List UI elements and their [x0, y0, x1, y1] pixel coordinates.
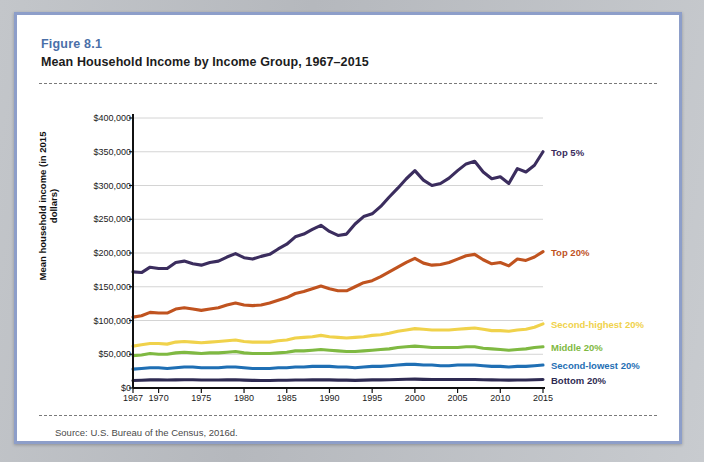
- y-tick-label: $300,000: [65, 181, 131, 191]
- y-tick-label: $250,000: [65, 214, 131, 224]
- divider-bottom: [39, 415, 657, 416]
- x-tick-label: 2010: [490, 393, 510, 403]
- series-label: Second-lowest 20%: [551, 360, 640, 371]
- y-tick-label: $150,000: [65, 282, 131, 292]
- chart-area: Mean household income (in 2015 dollars) …: [17, 83, 679, 415]
- figure-inner: Figure 8.1 Mean Household Income by Inco…: [17, 15, 679, 441]
- x-tick-label: 1975: [191, 393, 211, 403]
- y-axis-label: Mean household income (in 2015 dollars): [37, 121, 59, 291]
- figure-source: Source: U.S. Bureau of the Census, 2016d…: [55, 427, 238, 438]
- x-tick-label: 1980: [234, 393, 254, 403]
- series-label: Top 20%: [551, 246, 589, 257]
- y-tick-label: $50,000: [65, 349, 131, 359]
- series-label: Middle 20%: [551, 341, 603, 352]
- series-label: Top 5%: [551, 146, 584, 157]
- y-tick-label: $350,000: [65, 147, 131, 157]
- figure-number: Figure 8.1: [41, 37, 102, 51]
- x-tick-label: 2000: [405, 393, 425, 403]
- figure-card: Figure 8.1 Mean Household Income by Inco…: [14, 12, 682, 444]
- x-tick-label: 2015: [533, 393, 553, 403]
- screenshot-root: Figure 8.1 Mean Household Income by Inco…: [0, 0, 704, 462]
- x-tick-label: 1967: [123, 393, 143, 403]
- y-tick-label: $200,000: [65, 248, 131, 258]
- series-label: Second-highest 20%: [551, 318, 644, 329]
- x-axis-ticks: 1967197019751980198519901995200020052010…: [17, 389, 679, 409]
- series-label: Bottom 20%: [551, 374, 606, 385]
- x-tick-label: 1990: [319, 393, 339, 403]
- x-tick-label: 1995: [362, 393, 382, 403]
- y-tick-label: $400,000: [65, 113, 131, 123]
- x-tick-label: 1985: [277, 393, 297, 403]
- y-axis-ticks: $400,000$350,000$300,000$250,000$200,000…: [65, 83, 131, 415]
- figure-title: Mean Household Income by Income Group, 1…: [41, 55, 369, 69]
- x-tick-label: 1970: [149, 393, 169, 403]
- y-tick-label: $100,000: [65, 316, 131, 326]
- x-tick-label: 2005: [448, 393, 468, 403]
